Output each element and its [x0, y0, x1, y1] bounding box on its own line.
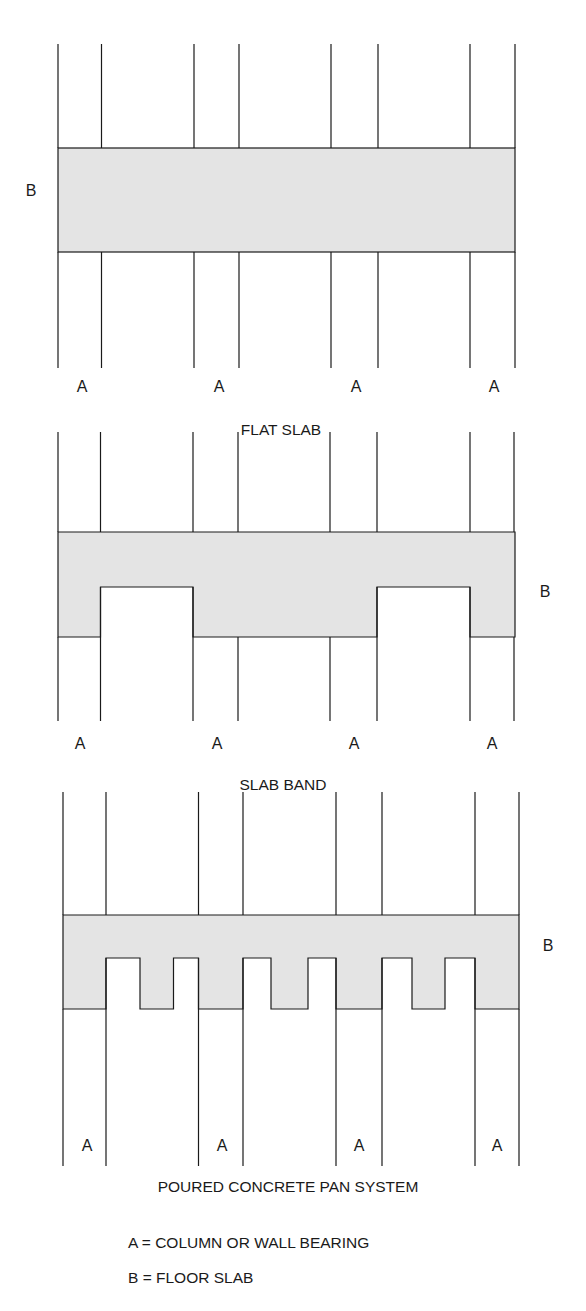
slab-label: B [540, 583, 551, 600]
bearing-label: A [82, 1137, 93, 1154]
legend-item-a: A = COLUMN OR WALL BEARING [128, 1234, 369, 1251]
slab-label: B [26, 182, 37, 199]
pan-system-diagram: B A A A A POURED CONCRETE PAN SYSTEM [63, 792, 553, 1195]
floor-slab [58, 532, 515, 637]
bearing-label: A [217, 1137, 228, 1154]
bearing-label: A [354, 1137, 365, 1154]
bearing-label: A [492, 1137, 503, 1154]
bearing-label: A [212, 735, 223, 752]
floor-systems-diagram: B A A A A FLAT SLAB B [0, 0, 586, 1311]
bearing-label: A [214, 378, 225, 395]
diagram-title: FLAT SLAB [241, 421, 321, 438]
bearing-label: A [349, 735, 360, 752]
diagram-title: POURED CONCRETE PAN SYSTEM [158, 1178, 419, 1195]
diagram-title: SLAB BAND [239, 776, 326, 793]
legend: A = COLUMN OR WALL BEARING B = FLOOR SLA… [128, 1234, 369, 1286]
slab-label: B [543, 937, 554, 954]
flat-slab-diagram: B A A A A FLAT SLAB [26, 44, 515, 438]
floor-slab [63, 915, 519, 1009]
bearing-label: A [487, 735, 498, 752]
bearing-label: A [77, 378, 88, 395]
bearing-label: A [489, 378, 500, 395]
legend-item-b: B = FLOOR SLAB [128, 1269, 253, 1286]
bearing-label: A [351, 378, 362, 395]
floor-slab [58, 148, 515, 252]
bearing-label: A [75, 735, 86, 752]
slab-band-diagram: B A A A A SLAB BAND [58, 432, 550, 793]
